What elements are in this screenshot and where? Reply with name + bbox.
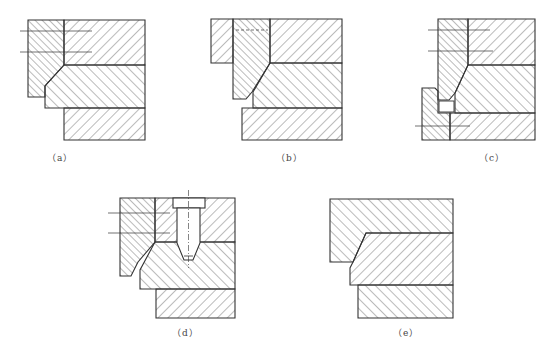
subfigure-d <box>108 190 235 318</box>
subfigure-label-c: （c） <box>479 151 505 164</box>
bottom-plate <box>450 113 535 140</box>
subfigure-c <box>415 19 535 140</box>
subfigure-a <box>20 20 145 140</box>
bottom-plate <box>156 289 235 318</box>
gap <box>439 101 454 112</box>
bottom-plate <box>64 108 145 140</box>
slider-block <box>45 65 145 108</box>
subfigure-label-b: （b） <box>276 151 303 164</box>
bottom-plate <box>242 108 342 140</box>
top-plate <box>64 20 145 65</box>
subfigure-b <box>211 19 342 140</box>
slider-block <box>455 65 535 113</box>
diagram-canvas <box>0 0 550 353</box>
outer-block <box>211 19 233 63</box>
slider-block <box>253 63 342 108</box>
slider-block <box>350 233 453 285</box>
subfigure-label-d: （d） <box>172 326 199 339</box>
screw-head <box>173 198 205 208</box>
bottom-plate <box>358 285 453 318</box>
subfigure-label-a: （a） <box>47 151 73 164</box>
subfigure-label-e: （e） <box>393 326 419 339</box>
top-plate <box>468 19 535 65</box>
top-plate <box>270 19 342 63</box>
subfigure-e <box>330 199 453 318</box>
